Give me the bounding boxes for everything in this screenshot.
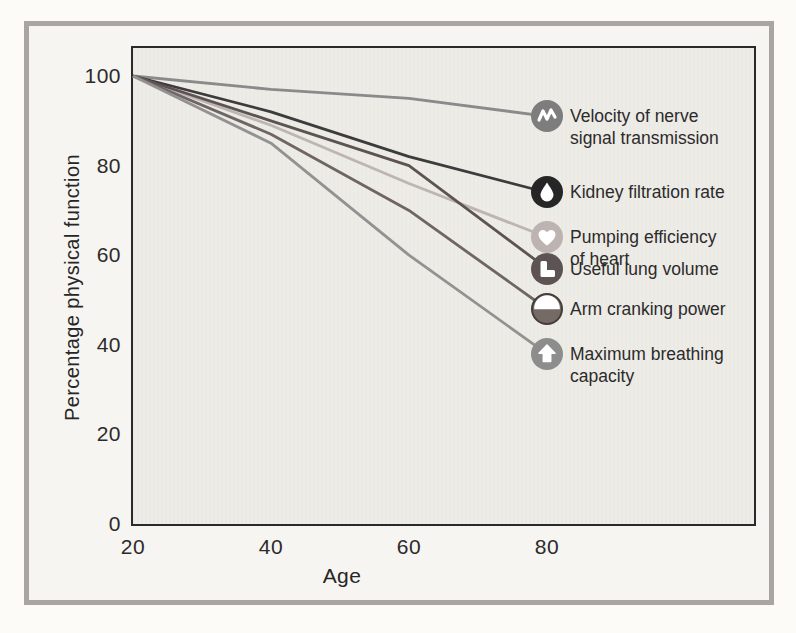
legend-label-line: signal transmission bbox=[570, 127, 719, 149]
legend-label-line: Velocity of nerve bbox=[570, 105, 719, 127]
legend-label-arm: Arm cranking power bbox=[570, 298, 726, 320]
legend-item-lung: Useful lung volume bbox=[531, 253, 719, 285]
x-tick-20: 20 bbox=[103, 534, 163, 560]
x-tick-80: 80 bbox=[517, 534, 577, 560]
breathing-arrow-icon bbox=[531, 338, 563, 370]
x-axis-title: Age bbox=[302, 564, 382, 588]
figure-aging-decline-chart: 100 80 60 40 20 0 20 40 60 80 Percentage… bbox=[0, 0, 796, 633]
legend-item-kidney: Kidney filtration rate bbox=[531, 176, 725, 208]
legend-label-line: Pumping efficiency bbox=[570, 226, 717, 248]
legend-item-arm: Arm cranking power bbox=[531, 293, 726, 325]
legend-label-nerve: Velocity of nerve signal transmission bbox=[570, 105, 719, 149]
droplet-icon bbox=[531, 176, 563, 208]
legend-label-line: capacity bbox=[570, 365, 724, 387]
x-tick-60: 60 bbox=[379, 534, 439, 560]
heart-icon bbox=[531, 221, 563, 253]
legend-label-line: Useful lung volume bbox=[570, 258, 719, 280]
legend-label-line: Maximum breathing bbox=[570, 343, 724, 365]
arm-icon bbox=[531, 293, 563, 325]
legend-label-line: Kidney filtration rate bbox=[570, 181, 725, 203]
legend-label-kidney: Kidney filtration rate bbox=[570, 181, 725, 203]
lung-icon bbox=[531, 253, 563, 285]
legend-label-breathing: Maximum breathing capacity bbox=[570, 343, 724, 387]
legend-label-line: Arm cranking power bbox=[570, 298, 726, 320]
y-axis-title: Percentage physical function bbox=[61, 61, 84, 515]
legend-item-breathing: Maximum breathing capacity bbox=[531, 338, 724, 387]
x-tick-40: 40 bbox=[241, 534, 301, 560]
nerve-wave-icon bbox=[531, 100, 563, 132]
legend-label-lung: Useful lung volume bbox=[570, 258, 719, 280]
legend-item-nerve: Velocity of nerve signal transmission bbox=[531, 100, 719, 149]
